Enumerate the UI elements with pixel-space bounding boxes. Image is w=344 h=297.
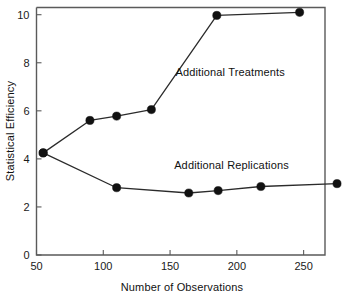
series-line-0 (43, 12, 299, 153)
data-point (39, 149, 47, 157)
chart-series-annotations: Additional TreatmentsAdditional Replicat… (174, 66, 289, 171)
chart-axes (37, 8, 326, 256)
data-point (214, 187, 222, 195)
x-tick-label-50: 50 (30, 260, 42, 272)
x-axis-tick-labels: 50100150200250 (30, 260, 312, 272)
data-point (86, 116, 94, 124)
data-point (113, 184, 121, 192)
data-point (113, 112, 121, 120)
y-tick-label-8: 8 (23, 57, 29, 69)
chart-tick-marks (37, 15, 304, 255)
x-axis-title: Number of Observations (121, 281, 244, 293)
x-tick-label-250: 250 (294, 260, 312, 272)
axis-frame (37, 8, 326, 256)
y-axis-title: Statistical Efficiency (4, 81, 16, 182)
data-point (185, 189, 193, 197)
data-point (333, 180, 341, 188)
data-point (213, 11, 221, 19)
statistical-efficiency-line-chart: 0246810 50100150200250 Additional Treatm… (0, 0, 344, 297)
y-tick-label-6: 6 (23, 105, 29, 117)
x-tick-label-150: 150 (161, 260, 179, 272)
series-annotation-0: Additional Treatments (175, 66, 285, 78)
data-point (257, 182, 265, 190)
chart-figure: 0246810 50100150200250 Additional Treatm… (0, 0, 344, 297)
x-tick-label-100: 100 (94, 260, 112, 272)
y-tick-label-10: 10 (17, 9, 29, 21)
y-tick-label-0: 0 (23, 249, 29, 261)
data-point (296, 8, 304, 16)
y-tick-label-4: 4 (23, 153, 29, 165)
y-tick-label-2: 2 (23, 201, 29, 213)
x-tick-label-200: 200 (228, 260, 246, 272)
data-point (147, 106, 155, 114)
series-annotation-1: Additional Replications (174, 159, 289, 171)
y-axis-tick-labels: 0246810 (17, 9, 29, 261)
